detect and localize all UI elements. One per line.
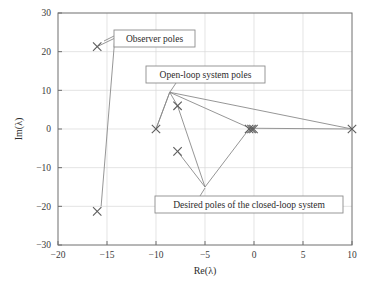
y-tick-label: 20: [42, 47, 52, 57]
annotations-group: Observer polesOpen-loop system polesDesi…: [104, 30, 343, 213]
annotation-label: Desired poles of the closed-loop system: [173, 200, 325, 210]
pole-plot-figure: −20−15−10−50510 3020100−10−20−30 Re(λ) I…: [0, 0, 371, 286]
x-tick-label: 10: [347, 250, 357, 260]
y-axis-tick-labels: 3020100−10−20−30: [36, 8, 51, 250]
closed-loop-connector: [170, 92, 352, 129]
pole-marker: [173, 102, 181, 110]
annotation-open-loop-system-poles[interactable]: Open-loop system poles: [146, 66, 265, 92]
annotation-observer-poles[interactable]: Observer poles: [104, 30, 195, 47]
pole-marker: [93, 207, 101, 215]
y-tick-label: −20: [36, 202, 51, 212]
y-axis-title: Im(λ): [13, 118, 25, 141]
pole-marker: [173, 147, 181, 155]
x-tick-label: 5: [301, 250, 306, 260]
annotation-label: Open-loop system poles: [160, 70, 252, 80]
desired-pole-connector: [205, 129, 249, 187]
scatter-plot-canvas: −20−15−10−50510 3020100−10−20−30 Re(λ) I…: [0, 0, 371, 286]
x-tick-label: −10: [149, 250, 164, 260]
x-tick-label: −20: [51, 250, 66, 260]
annotation-label: Observer poles: [126, 34, 184, 44]
connector-lines-group: [97, 38, 352, 206]
y-tick-label: 10: [42, 86, 52, 96]
open-loop-connector: [156, 92, 205, 187]
x-axis-tick-labels: −20−15−10−50510: [51, 250, 357, 260]
pole-marker: [93, 42, 101, 50]
y-tick-label: 30: [42, 8, 52, 18]
x-tick-label: −5: [200, 250, 210, 260]
x-tick-label: 0: [252, 250, 257, 260]
y-tick-label: −10: [36, 163, 51, 173]
annotation-leader-line: [104, 36, 114, 41]
annotation-leader-line: [200, 188, 205, 196]
annotation-desired-poles-closed-loop[interactable]: Desired poles of the closed-loop system: [155, 188, 343, 213]
x-tick-label: −15: [100, 250, 115, 260]
x-axis-title: Re(λ): [194, 265, 217, 277]
observer-pole-connector: [97, 38, 115, 206]
y-tick-label: 0: [46, 124, 51, 134]
y-tick-label: −30: [36, 240, 51, 250]
